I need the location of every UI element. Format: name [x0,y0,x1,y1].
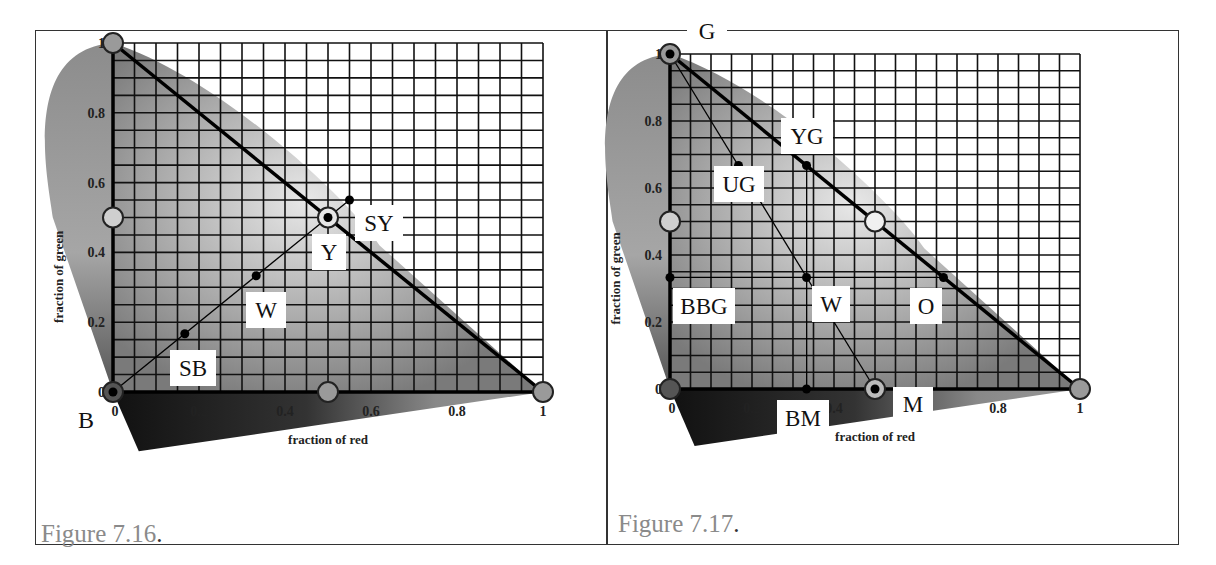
label-G: G [687,13,727,49]
label-BM: BM [777,400,829,436]
midpoint-circle [660,212,680,232]
red-primary-circle [1070,379,1090,399]
point-W [802,273,811,282]
point-BBG [666,273,675,282]
x-axis-title: fraction of red [835,429,916,444]
label-text: W [820,292,842,317]
x-tick-label: 1 [1077,401,1084,416]
label-text: O [918,294,935,319]
y-tick-label: 0.6 [645,181,663,196]
label-text: UG [722,172,755,197]
label-M: M [893,387,933,421]
chromaticity-diagram-7-17: 0.20.40.60.80.20.40.60.81001fraction of … [0,0,1216,565]
label-text: YG [790,124,823,149]
y-tick-label: 0.2 [645,315,663,330]
label-W: W [812,286,850,322]
label-text: G [699,19,716,44]
y-axis-title: fraction of green [608,232,623,325]
label-BBG: BBG [673,288,735,324]
caption-text: Figure 7.17 [618,510,733,537]
label-text: BM [785,406,821,431]
blue-primary-circle [660,379,680,399]
label-YG: YG [781,118,833,154]
caption-dot: . [733,510,739,537]
point-BM [802,385,811,394]
yellow-circle [865,212,885,232]
label-UG: UG [714,166,764,202]
point-G [666,50,675,59]
x-tick-label: 0.8 [989,401,1007,416]
figure-caption: Figure 7.17. [618,512,740,536]
x-tick-label: 0.2 [743,401,761,416]
point-YG [802,161,811,170]
y-tick-label: 0.4 [645,248,663,263]
y-tick-label: 0.8 [645,114,663,129]
point-O [939,273,948,282]
label-text: M [903,392,923,417]
x-tick-label: 0 [669,401,676,416]
label-O: O [910,288,942,324]
point-M [871,385,880,394]
label-text: BBG [680,294,727,319]
